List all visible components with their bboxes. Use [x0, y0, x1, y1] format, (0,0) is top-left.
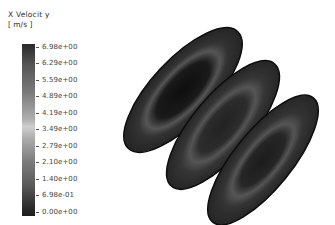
- contour-plot: [0, 0, 335, 225]
